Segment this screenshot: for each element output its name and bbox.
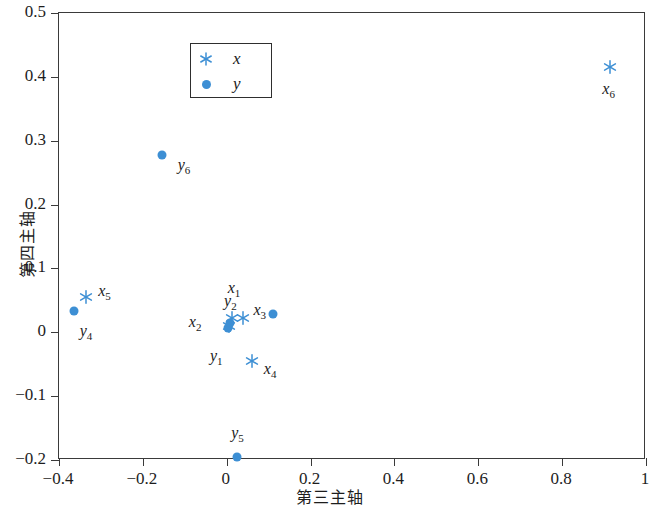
asterisk-marker bbox=[79, 290, 93, 304]
data-point-y2 bbox=[226, 319, 235, 328]
x-axis-tick bbox=[143, 458, 144, 466]
x-axis-title: 第三主轴 bbox=[0, 484, 659, 508]
y-axis-tick-label: 0.4 bbox=[0, 66, 46, 86]
point-label-y6: y6 bbox=[178, 156, 191, 176]
circle-marker bbox=[233, 452, 242, 461]
legend-label-x: x bbox=[221, 49, 241, 69]
data-point-x3 bbox=[236, 311, 250, 325]
y-axis-tick bbox=[51, 268, 59, 269]
y-axis-tick bbox=[51, 77, 59, 78]
circle-marker bbox=[226, 319, 235, 328]
data-point-x4 bbox=[245, 354, 259, 368]
y-axis-tick-label: 0 bbox=[0, 321, 46, 341]
y-axis-tick bbox=[51, 13, 59, 14]
point-label-x6: x6 bbox=[602, 80, 615, 100]
y-axis-tick bbox=[51, 141, 59, 142]
x-axis-tick bbox=[562, 458, 563, 466]
circle-marker bbox=[157, 150, 166, 159]
point-label-x2: x2 bbox=[189, 313, 202, 333]
y-axis-title: 第四主轴 bbox=[14, 174, 38, 314]
point-label-x3: x3 bbox=[253, 301, 266, 321]
circle-marker bbox=[69, 307, 78, 316]
data-point-y6 bbox=[157, 150, 166, 159]
data-point-y5 bbox=[233, 452, 242, 461]
data-point-y4 bbox=[69, 307, 78, 316]
plot-area: x1x2x3x4x5x6y1y2y3y4y5y6 x bbox=[58, 12, 645, 459]
point-label-x4: x4 bbox=[264, 360, 277, 380]
legend-label-y: y bbox=[221, 74, 241, 94]
scatter-plot-figure: x1x2x3x4x5x6y1y2y3y4y5y6 x bbox=[0, 0, 659, 516]
legend-box: x y bbox=[190, 43, 272, 98]
asterisk-marker bbox=[245, 354, 259, 368]
x-axis-tick bbox=[311, 458, 312, 466]
point-label-y2: y2 bbox=[224, 292, 237, 312]
y-axis-tick-label: −0.2 bbox=[0, 449, 46, 469]
y-axis-tick-label: 0.3 bbox=[0, 130, 46, 150]
asterisk-marker bbox=[603, 60, 617, 74]
point-label-y1: y1 bbox=[210, 347, 223, 367]
data-point-x5 bbox=[79, 290, 93, 304]
y-axis-tick bbox=[51, 332, 59, 333]
y-axis-tick bbox=[51, 396, 59, 397]
y-axis-tick-label: 0.5 bbox=[0, 2, 46, 22]
point-label-y5: y5 bbox=[231, 424, 244, 444]
circle-icon bbox=[191, 80, 221, 89]
circle-marker bbox=[268, 310, 277, 319]
point-label-x5: x5 bbox=[98, 282, 111, 302]
legend-entry-x: x bbox=[191, 46, 271, 72]
x-axis-tick bbox=[394, 458, 395, 466]
x-axis-tick bbox=[646, 458, 647, 466]
data-point-x6 bbox=[603, 60, 617, 74]
asterisk-marker bbox=[236, 311, 250, 325]
y-axis-tick bbox=[51, 460, 59, 461]
point-label-y4: y4 bbox=[80, 322, 93, 342]
asterisk-icon bbox=[191, 52, 221, 66]
y-axis-tick-label: −0.1 bbox=[0, 385, 46, 405]
x-axis-tick bbox=[59, 458, 60, 466]
x-axis-tick bbox=[478, 458, 479, 466]
x-axis-tick bbox=[227, 458, 228, 466]
legend-entry-y: y bbox=[191, 71, 271, 97]
y-axis-tick bbox=[51, 205, 59, 206]
data-point-y3 bbox=[268, 310, 277, 319]
